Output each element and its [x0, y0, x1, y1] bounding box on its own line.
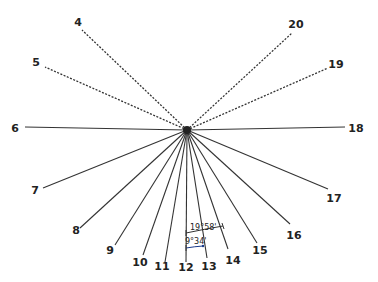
ray-17 [187, 130, 328, 189]
radial-diagram: 19°58' 9°34' 456789101112131415161718192… [0, 0, 378, 282]
ray-19 [187, 68, 328, 130]
ray-label-17: 17 [326, 192, 341, 205]
ray-label-16: 16 [286, 229, 302, 242]
angle-arcs-group: 19°58' 9°34' [185, 223, 224, 251]
ray-label-12: 12 [178, 261, 193, 274]
angle-label-9-34: 9°34' [185, 237, 206, 246]
angle-label-19-58: 19°58' [190, 223, 217, 232]
ray-label-9: 9 [106, 244, 114, 257]
ray-label-5: 5 [32, 56, 40, 69]
ray-label-10: 10 [132, 256, 148, 269]
ray-label-13: 13 [201, 260, 216, 273]
ray-label-4: 4 [74, 16, 82, 29]
ray-4 [82, 30, 187, 130]
ray-8 [80, 130, 187, 228]
ray-6 [25, 127, 187, 130]
ray-10 [143, 130, 187, 255]
ray-11 [165, 130, 187, 262]
ray-label-20: 20 [288, 18, 304, 31]
ray-label-15: 15 [252, 244, 267, 257]
ray-7 [43, 130, 187, 188]
ray-label-18: 18 [348, 122, 363, 135]
ray-16 [187, 130, 290, 224]
ray-label-11: 11 [154, 260, 169, 273]
ray-label-14: 14 [225, 254, 241, 267]
ray-20 [187, 33, 292, 130]
ray-18 [187, 127, 345, 130]
ray-9 [115, 130, 187, 245]
angle-arc-12-13 [186, 246, 203, 248]
ray-label-7: 7 [31, 184, 39, 197]
ray-label-19: 19 [328, 58, 343, 71]
center-point [183, 126, 191, 134]
ray-label-6: 6 [11, 122, 19, 135]
ray-label-8: 8 [72, 224, 80, 237]
ray-5 [45, 67, 187, 130]
